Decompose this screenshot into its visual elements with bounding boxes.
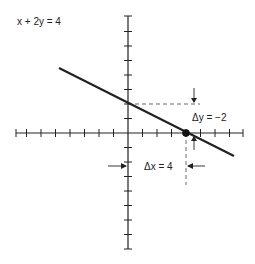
x-intercept-point [182, 129, 190, 137]
delta-y-label: Δy = −2 [192, 112, 227, 123]
arrowhead-down-icon [191, 98, 197, 103]
coordinate-plane: Δy = −2 Δx = 4 [0, 0, 255, 264]
delta-x-label: Δx = 4 [144, 161, 173, 172]
arrowhead-right-icon [121, 163, 127, 169]
arrowhead-left-icon [187, 163, 193, 169]
equation-label: x + 2y = 4 [17, 16, 61, 27]
